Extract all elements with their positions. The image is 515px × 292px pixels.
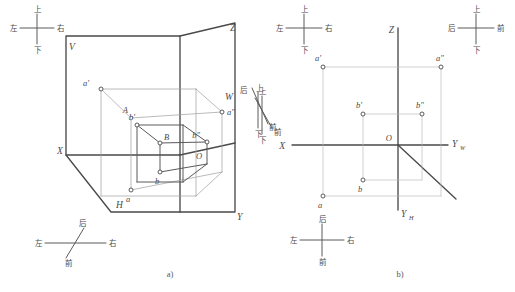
panel-b-label-origin: O <box>386 133 392 143</box>
panel-b-label-a-top: a <box>318 200 322 210</box>
panel-b-label-z-axis: Z <box>389 25 395 35</box>
compass-label-right: 右 <box>325 23 333 33</box>
panel-b-point-markers <box>321 65 443 198</box>
panel-a-label-z-axis: Z <box>230 23 236 33</box>
panel-a-label-y-axis: Y <box>237 212 244 222</box>
point-marker-b-front <box>361 112 365 116</box>
panel-a-label-w-plane: W <box>225 92 234 102</box>
panel-b-point-a-construction <box>323 67 441 196</box>
panel-a-point-markers <box>99 87 224 192</box>
panel-b-compass-top-left: 上 下 左 右 <box>276 5 333 55</box>
compass-label-up: 上 <box>259 87 267 96</box>
compass-label-front: 前 <box>65 258 73 268</box>
panel-b-label-x-axis: X <box>278 141 286 151</box>
panel-a-label-a-side: a" <box>227 107 235 117</box>
panel-a-label-B-space: B <box>164 132 169 142</box>
panel-b-caption: b) <box>396 269 403 279</box>
compass-label-right: 右 <box>347 235 355 245</box>
compass-label-right: 右 <box>57 23 65 33</box>
panel-a-compass-top-left: 上 下 左 右 <box>10 5 65 55</box>
panel-b-label-yw-subscript: W <box>460 144 466 151</box>
panel-b-label-a-front: a' <box>315 53 321 63</box>
point-marker-B-space <box>158 141 162 145</box>
compass-label-down: 下 <box>259 136 267 145</box>
compass-label-up: 上 <box>473 5 481 14</box>
panel-a-label-b-top: b <box>155 176 159 186</box>
panel-a-label-a-front: a' <box>83 78 89 88</box>
compass-label-back: 后 <box>240 85 248 95</box>
panel-b-label-b-side: b" <box>416 100 424 110</box>
figure-root: 上 下 左 右 后 前 左 右 后 上 下 前 <box>0 0 515 292</box>
compass-label-up: 上 <box>301 5 309 14</box>
panel-b-label-a-side: a" <box>436 53 444 63</box>
panel-b-label-yw-axis: Y <box>452 139 459 149</box>
point-marker-a-top <box>321 194 325 198</box>
panel-a-label-origin: O <box>196 151 202 161</box>
compass-label-back: 后 <box>79 218 87 228</box>
compass-label-front: 前 <box>319 257 327 267</box>
technical-drawing-canvas: 上 下 左 右 后 前 左 右 后 上 下 前 <box>0 0 515 292</box>
panel-b-label-yh-subscript: H <box>408 214 414 221</box>
point-marker-a-front <box>321 65 325 69</box>
compass-label-back: 后 <box>319 214 327 224</box>
point-marker-b-top <box>361 178 365 182</box>
panel-a-label-A-space: A <box>122 105 129 115</box>
point-marker-a-top <box>129 188 133 192</box>
compass-label-left: 左 <box>290 235 298 245</box>
point-marker-b-front <box>135 123 139 127</box>
point-marker-b-side <box>420 112 424 116</box>
compass-label-front: 前 <box>497 23 505 33</box>
panel-b-label-b-front: b' <box>356 100 362 110</box>
panel-a-label-a-top: a <box>126 194 130 204</box>
panel-b-point-b-construction <box>363 114 422 180</box>
panel-b-compass-bottom: 后 前 左 右 <box>290 214 355 267</box>
panel-a-compass-bottom-left: 后 前 左 右 <box>35 218 117 268</box>
panel-b-compass-top-right: 上 下 后 前 <box>448 5 505 55</box>
compass-label-back: 后 <box>448 23 456 33</box>
compass-label-up: 上 <box>34 5 42 14</box>
panel-a-caption: a) <box>167 269 174 279</box>
compass-label-down: 下 <box>34 46 42 55</box>
compass-label-front: 前 <box>274 127 282 137</box>
compass-label-left: 左 <box>10 23 18 33</box>
compass-label-left: 左 <box>276 23 284 33</box>
point-marker-a-side <box>220 110 224 114</box>
panel-b: 上 下 左 右 上 下 后 前 上 下 前 <box>255 5 505 279</box>
panel-a-label-b-front: b' <box>129 112 135 122</box>
panel-b-label-b-top: b <box>358 184 362 194</box>
compass-label-down: 下 <box>301 46 309 55</box>
point-marker-b-side <box>205 140 209 144</box>
point-marker-b-top <box>158 170 162 174</box>
panel-b-label-yh-axis: Y <box>401 209 408 219</box>
panel-b-compass-left-edge: 上 下 前 <box>255 87 282 145</box>
point-marker-a-front <box>99 87 103 91</box>
compass-label-left: 左 <box>35 238 43 248</box>
point-marker-a-side <box>439 65 443 69</box>
compass-label-down: 下 <box>473 46 481 55</box>
panel-a-label-h-plane: H <box>115 200 124 210</box>
panel-a-label-v-plane: V <box>69 42 76 52</box>
panel-a-label-x-axis: X <box>56 146 64 156</box>
panel-a: 上 下 左 右 后 前 左 右 后 上 下 前 <box>10 5 277 279</box>
compass-label-right: 右 <box>109 238 117 248</box>
panel-a-label-b-side: b" <box>192 130 200 140</box>
